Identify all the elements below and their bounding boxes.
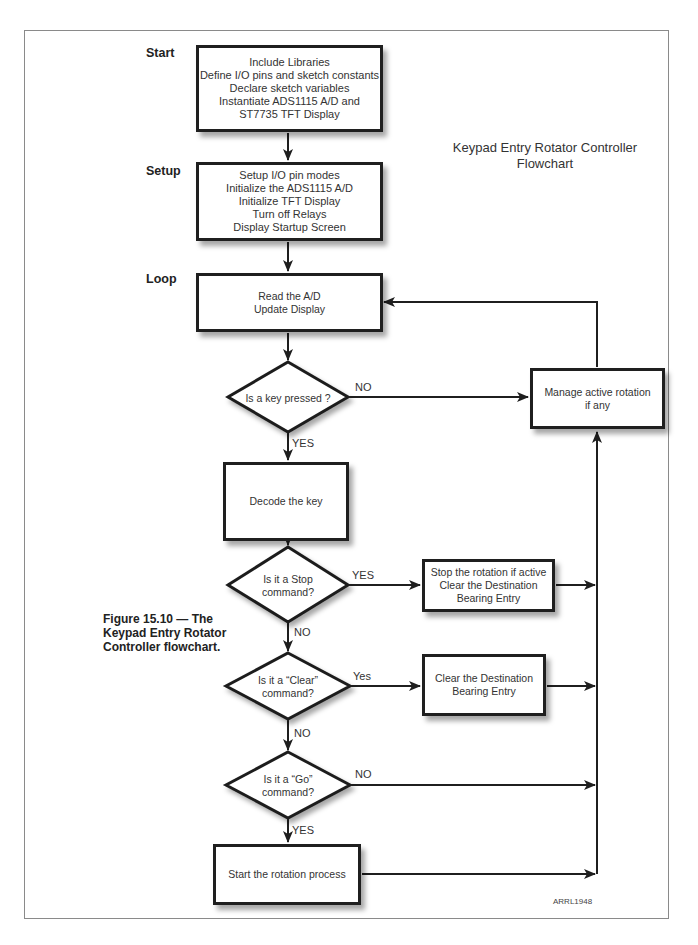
process-manage-rotation: Manage active rotation if any [530,368,665,429]
process-decode-key: Decode the key [223,462,349,541]
edge-label-stop-yes: YES [352,569,374,581]
decision-is-clear-text: Is it a “Clear” command? [258,674,318,700]
process-stop-text: Stop the rotation if active Clear the De… [431,566,547,605]
arrow-manage-to-read [384,302,597,367]
edge-label-clear-yes: Yes [353,670,371,682]
edge-label-key-yes: YES [292,437,314,449]
process-read-text: Read the A/D Update Display [254,290,325,316]
edge-label-go-yes: YES [292,824,314,836]
process-decode-text: Decode the key [250,495,323,508]
figure-caption: Figure 15.10 — The Keypad Entry Rotator … [103,612,233,654]
title-line-1: Keypad Entry Rotator Controller [453,140,637,155]
decision-key-pressed-text: Is a key pressed ? [245,392,330,405]
section-label-loop: Loop [146,272,177,286]
edge-label-stop-no: NO [294,626,311,638]
title-line-2: Flowchart [517,156,573,171]
figure-code: ARRL1948 [553,897,592,906]
decision-is-go-text: Is it a “Go” command? [262,773,314,799]
decision-is-stop-text: Is it a Stop command? [262,573,314,599]
process-setup-text: Setup I/O pin modes Initialize the ADS11… [226,169,353,234]
edge-label-go-no: NO [355,768,372,780]
process-start-rotation: Start the rotation process [213,844,361,905]
process-start-rotation-text: Start the rotation process [228,868,345,881]
process-setup: Setup I/O pin modes Initialize the ADS11… [196,162,383,241]
process-clear-entry: Clear the Destination Bearing Entry [422,654,546,716]
caption-line-2: Keypad Entry Rotator [103,626,233,640]
section-label-start: Start [146,46,174,60]
process-read: Read the A/D Update Display [196,273,383,332]
section-label-setup: Setup [146,164,181,178]
caption-line-3: Controller flowchart. [103,640,233,654]
process-clear-text: Clear the Destination Bearing Entry [435,672,533,698]
process-init-text: Include Libraries Define I/O pins and sk… [200,56,379,121]
process-manage-text: Manage active rotation if any [544,386,650,412]
process-init: Include Libraries Define I/O pins and sk… [196,45,383,132]
edge-label-clear-no: NO [294,727,311,739]
chart-title: Keypad Entry Rotator Controller Flowchar… [430,140,660,172]
process-stop-rotation: Stop the rotation if active Clear the De… [422,559,555,612]
caption-line-1: Figure 15.10 — The [103,612,233,626]
edge-label-key-no: NO [355,381,372,393]
